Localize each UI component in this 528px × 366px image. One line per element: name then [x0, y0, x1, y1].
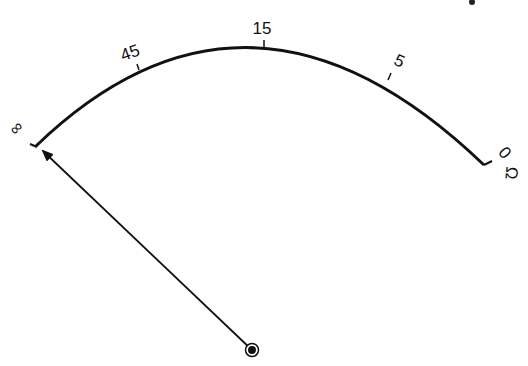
label-5: 5 [391, 50, 408, 71]
meter-diagram: ∞ 45 15 5 0 Ω [0, 0, 528, 366]
ohm-unit-icon: Ω [501, 166, 521, 180]
label-0: 0 [494, 143, 515, 162]
meter-needle [43, 151, 252, 350]
needle-pivot-inner [248, 346, 256, 354]
label-45: 45 [118, 41, 142, 65]
scale-arc [36, 48, 484, 165]
end-stop-zero [484, 161, 492, 165]
label-infinity: ∞ [5, 117, 27, 139]
dot-marker [469, 0, 475, 5]
label-15: 15 [253, 19, 272, 38]
tick-5 [388, 73, 391, 80]
tick-45 [137, 64, 139, 70]
